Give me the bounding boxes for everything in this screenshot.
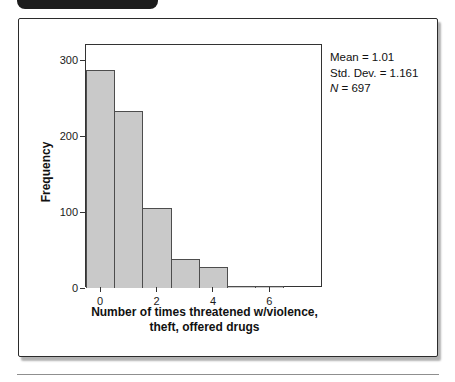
x-tick-mark — [269, 287, 270, 292]
top-tab-cutoff — [17, 0, 158, 9]
stat-mean: Mean = 1.01 — [330, 50, 418, 66]
y-axis-title: Frequency — [39, 165, 53, 179]
y-tick-mark — [80, 60, 85, 61]
y-tick-label: 0 — [44, 282, 78, 294]
y-tick-mark — [80, 288, 85, 289]
x-axis-title: Number of times threatened w/violence, t… — [86, 305, 323, 335]
histogram-bar — [199, 267, 228, 288]
figure-frame: 01002003000246 Frequency Number of times… — [18, 18, 438, 357]
histogram-bar — [142, 208, 171, 288]
x-tick-mark — [100, 287, 101, 292]
histogram-bar — [227, 286, 256, 288]
x-tick-mark — [212, 287, 213, 292]
y-tick-mark — [80, 212, 85, 213]
y-tick-mark — [80, 136, 85, 137]
x-axis-title-line2: theft, offered drugs — [86, 320, 323, 335]
histogram-bar — [114, 111, 143, 288]
page: 01002003000246 Frequency Number of times… — [0, 0, 455, 382]
x-tick-mark — [156, 287, 157, 292]
y-axis-title-text: Frequency — [39, 142, 53, 203]
plot-area: 01002003000246 — [85, 44, 322, 287]
histogram-bar — [171, 259, 200, 288]
stat-n-value: = 697 — [338, 82, 370, 94]
y-tick-label: 200 — [44, 130, 78, 142]
stats-annotation: Mean = 1.01 Std. Dev. = 1.161 N = 697 — [330, 50, 418, 97]
y-tick-label: 100 — [44, 206, 78, 218]
x-axis-title-line1: Number of times threatened w/violence, — [86, 305, 323, 320]
histogram-bar — [86, 70, 115, 288]
bottom-rule — [17, 374, 439, 375]
stat-std-dev: Std. Dev. = 1.161 — [330, 66, 418, 82]
y-tick-label: 300 — [44, 54, 78, 66]
stat-n: N = 697 — [330, 81, 418, 97]
